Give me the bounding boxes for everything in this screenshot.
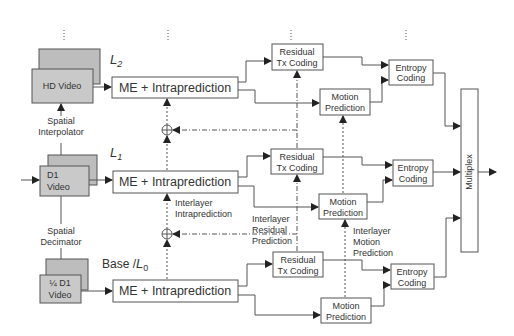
quarter-d1-line2: Video	[49, 290, 72, 300]
layer-l2-label: L2	[110, 52, 122, 69]
interlayer-residual-label: Interlayer Residual Prediction	[252, 214, 292, 246]
interlayer-intra-line1: Interlayer	[175, 198, 213, 208]
layer-l2: HD Video L2 ME + Intraprediction Residua…	[32, 44, 460, 126]
interlayer-intraprediction-label: Interlayer Intraprediction	[175, 198, 232, 219]
motion-l1-line1: Motion	[329, 197, 356, 207]
motion-l2-line2: Prediction	[325, 103, 365, 113]
residual-l0-line2: Tx Coding	[277, 266, 318, 276]
entropy-l1-line2: Coding	[399, 174, 428, 184]
multiplex-block: Multiplex	[461, 89, 496, 252]
entropy-l2-line2: Coding	[397, 73, 426, 83]
entropy-l1-line1: Entropy	[397, 163, 429, 173]
motion-l2-line1: Motion	[331, 92, 358, 102]
quarter-d1-line1: ¼ D1	[49, 278, 71, 288]
layer-l1: D1 Video L1 ME + Intraprediction Residua…	[21, 145, 460, 219]
spatial-decimator-line2: Decimator	[40, 237, 81, 247]
entropy-l2-line1: Entropy	[395, 63, 427, 73]
entropy-l0-line1: Entropy	[396, 267, 428, 277]
me-intraprediction-l0-label: ME + Intraprediction	[119, 284, 231, 298]
continuation-dots	[64, 30, 406, 40]
motion-l0-line2: Prediction	[326, 312, 366, 322]
d1-video-line1: D1	[47, 170, 59, 180]
svc-encoder-diagram: HD Video L2 ME + Intraprediction Residua…	[0, 0, 514, 336]
interlayer-motion-line3: Prediction	[353, 248, 393, 258]
residual-l1-line1: Residual	[279, 152, 314, 162]
spatial-interpolator-line2: Interpolator	[38, 127, 84, 137]
entropy-l0-line2: Coding	[398, 278, 427, 288]
motion-l1-line2: Prediction	[323, 208, 363, 218]
motion-l0-line1: Motion	[332, 301, 359, 311]
interlayer-residual-line1: Interlayer	[252, 214, 290, 224]
residual-l1-line2: Tx Coding	[276, 163, 317, 173]
interlayer-motion-line2: Motion	[353, 237, 380, 247]
interlayer-motion-label: Interlayer Motion Prediction	[353, 226, 393, 258]
interlayer-intra-line2: Intraprediction	[175, 209, 232, 219]
spatial-interpolator-line1: Spatial	[47, 116, 75, 126]
me-intraprediction-l1-label: ME + Intraprediction	[119, 175, 231, 189]
interlayer-motion-line1: Interlayer	[353, 226, 391, 236]
residual-l0-line1: Residual	[280, 255, 315, 265]
spatial-decimator-line1: Spatial	[47, 226, 75, 236]
me-intraprediction-l2-label: ME + Intraprediction	[119, 81, 231, 95]
interlayer-residual-line3: Prediction	[252, 236, 292, 246]
d1-video-line2: Video	[47, 182, 70, 192]
hd-video-label: HD Video	[43, 81, 81, 91]
multiplex-label: Multiplex	[464, 154, 474, 190]
layer-base-label: Base /L0	[102, 256, 148, 273]
layer-l1-label: L1	[110, 145, 122, 162]
residual-l2-line2: Tx Coding	[276, 58, 317, 68]
residual-l2-line1: Residual	[279, 47, 314, 57]
